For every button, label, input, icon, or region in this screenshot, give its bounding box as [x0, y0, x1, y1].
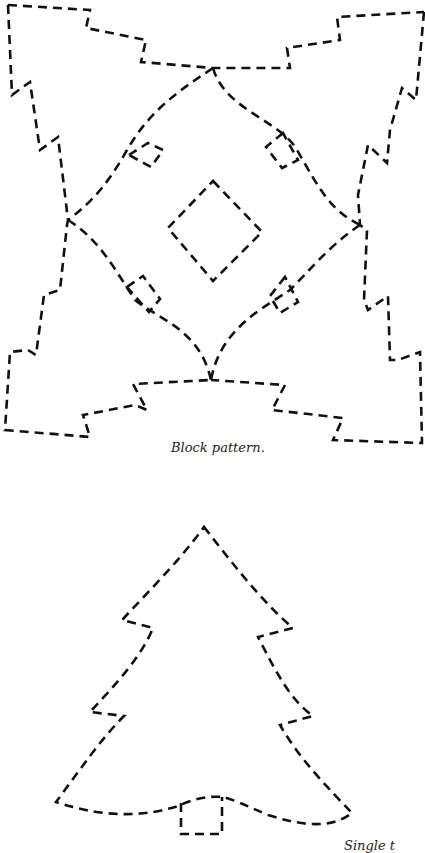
block-right-tree-outline [211, 12, 424, 443]
block-pattern-caption: Block pattern. [171, 440, 265, 455]
block-inner-curve-top-right [213, 68, 360, 225]
block-notch-square-br [270, 277, 298, 313]
block-top-tree-outline [8, 5, 424, 68]
single-tree-caption: Single t [344, 838, 395, 853]
block-notch-square-tl [129, 143, 163, 167]
block-inner-curve-top-left [68, 68, 213, 220]
block-center-diamond [168, 181, 262, 281]
block-notch-square-tr [266, 133, 298, 168]
single-tree-outline [56, 527, 352, 824]
block-inner-curve-bottom-right [211, 225, 360, 380]
block-left-tree-outline [5, 5, 211, 437]
